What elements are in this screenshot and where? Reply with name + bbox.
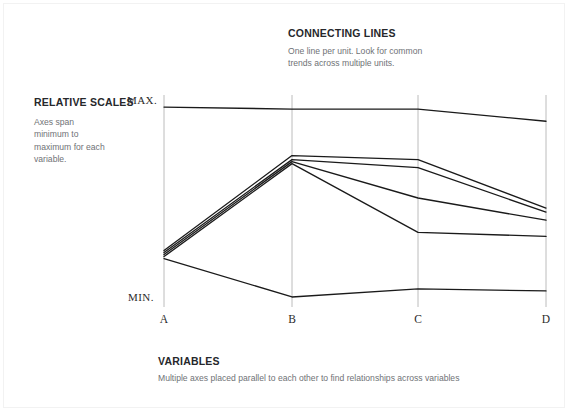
callout-variables-title: VARIABLES (158, 355, 558, 368)
callout-connecting-lines-title: CONNECTING LINES (288, 27, 538, 40)
axis-category-label-d: D (536, 313, 556, 325)
callout-relative-scales: RELATIVE SCALES Axes span minimum to max… (34, 96, 144, 166)
series-line-unit-2 (164, 156, 546, 251)
chart-series-lines (164, 107, 546, 297)
series-line-unit-3 (164, 160, 546, 253)
callout-relative-scales-body: Axes span minimum to maximum for each va… (34, 116, 106, 166)
callout-connecting-lines: CONNECTING LINES One line per unit. Look… (288, 27, 538, 69)
screenshot-root: MAX. MIN. ABCD CONNECTING LINES One line… (0, 0, 568, 411)
axis-category-label-a: A (154, 313, 174, 325)
axis-category-label-b: B (282, 313, 302, 325)
axis-category-label-c: C (408, 313, 428, 325)
axis-min-label: MIN. (128, 291, 154, 303)
callout-connecting-lines-body: One line per unit. Look for common trend… (288, 45, 448, 69)
callout-variables: VARIABLES Multiple axes placed parallel … (158, 355, 558, 384)
callout-relative-scales-title: RELATIVE SCALES (34, 96, 144, 110)
series-line-unit-6 (164, 259, 546, 297)
series-line-unit-1 (164, 107, 546, 121)
callout-variables-body: Multiple axes placed parallel to each ot… (158, 372, 558, 384)
